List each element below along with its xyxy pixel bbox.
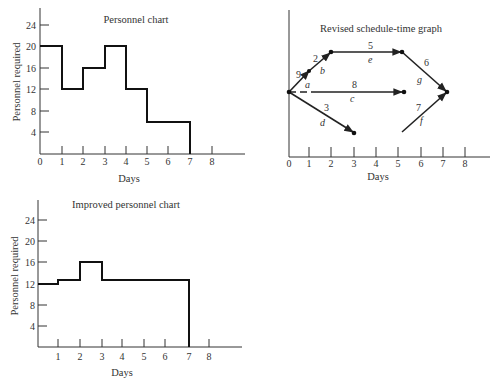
edge-a-letter: a: [305, 79, 310, 90]
x-tick-label: 6: [163, 351, 168, 362]
node: [445, 90, 450, 95]
x-tick-label: 3: [100, 351, 105, 362]
improved-personnel-chart: 24 20 16 12 8 4 1 2 3 4 5 6 7 8: [9, 199, 242, 378]
y-tick-label: 4: [31, 127, 36, 138]
personnel-chart: 24 20 16 12 8 4 0 1 2 3 4 5 6 7 8: [11, 8, 245, 184]
edge-d-letter: d: [320, 117, 326, 128]
edge-g-duration: 6: [424, 57, 429, 68]
x-tick-labels: 1 2 3 4 5 6 7 8: [56, 351, 212, 362]
x-tick-label: 7: [441, 158, 446, 169]
edge-c-letter: c: [350, 93, 355, 104]
personnel-step-line: [40, 46, 190, 154]
y-axis-label: Personnel required: [11, 42, 22, 122]
y-tick-labels: 24 20 16 12 8 4: [25, 215, 35, 332]
improved-personnel-step-line: [38, 262, 189, 347]
y-ticks: [38, 220, 47, 326]
x-tick-label: 4: [120, 351, 125, 362]
y-tick-labels: 24 20 16 12 8 4: [26, 20, 36, 138]
y-tick-label: 12: [26, 84, 36, 95]
y-tick-label: 20: [25, 236, 35, 247]
y-tick-label: 8: [31, 106, 36, 117]
x-tick-label: 5: [396, 158, 401, 169]
node: [307, 69, 311, 73]
x-tick-label: 5: [142, 351, 147, 362]
x-tick-label: 6: [166, 156, 171, 167]
x-tick-label: 8: [210, 156, 215, 167]
node: [400, 50, 405, 55]
edge-f-duration: 7: [416, 102, 421, 113]
y-tick-label: 12: [25, 279, 35, 290]
x-axis-label: Days: [111, 367, 133, 378]
edge-f: [402, 93, 446, 132]
y-axis-label: Personnel required: [9, 236, 20, 316]
x-tick-label: 7: [188, 156, 193, 167]
node: [402, 90, 407, 95]
y-tick-label: 4: [30, 321, 35, 332]
x-tick-label: 2: [78, 351, 83, 362]
x-tick-label: 7: [187, 351, 192, 362]
edge-a-duration: 9: [296, 69, 301, 80]
chart-title: Personnel chart: [103, 14, 168, 25]
edge-labels: 9 a 2 b 5 e 6 g 8 c 3 d 7 f: [296, 40, 429, 128]
edge-e-duration: 5: [368, 40, 373, 51]
y-tick-label: 24: [26, 20, 36, 31]
x-tick-label: 1: [56, 351, 61, 362]
x-tick-label: 4: [374, 158, 379, 169]
edge-f-letter: f: [420, 115, 424, 126]
revised-schedule-graph: 0 1 2 3 4 5 6 7 8: [287, 10, 491, 182]
chart-title: Improved personnel chart: [72, 199, 180, 210]
y-tick-label: 16: [25, 257, 35, 268]
x-tick-label: 1: [60, 156, 65, 167]
y-tick-label: 24: [25, 215, 35, 226]
node: [329, 50, 334, 55]
x-tick-label: 6: [419, 158, 424, 169]
edge-e-letter: e: [368, 54, 373, 65]
edge-g-letter: g: [417, 74, 422, 85]
x-tick-label: 3: [103, 156, 108, 167]
edge-b-duration: 2: [313, 53, 318, 64]
x-tick-label: 2: [329, 158, 334, 169]
x-tick-label: 8: [463, 158, 468, 169]
x-tick-label: 2: [81, 156, 86, 167]
node: [287, 90, 292, 95]
x-ticks: [309, 147, 465, 157]
x-tick-label: 8: [207, 351, 212, 362]
x-tick-labels: 0 1 2 3 4 5 6 7 8: [287, 158, 468, 169]
y-ticks: [40, 25, 49, 132]
edge-c-duration: 8: [352, 79, 357, 90]
figure: 24 20 16 12 8 4 0 1 2 3 4 5 6 7 8: [0, 0, 499, 388]
y-tick-label: 8: [30, 300, 35, 311]
x-ticks: [58, 339, 209, 347]
x-axis-label: Days: [118, 173, 140, 184]
x-tick-label: 1: [307, 158, 312, 169]
edge-d-duration: 3: [324, 102, 329, 113]
x-tick-label: 4: [124, 156, 129, 167]
x-tick-label: 3: [352, 158, 357, 169]
node: [352, 131, 357, 136]
x-tick-labels: 0 1 2 3 4 5 6 7 8: [38, 156, 215, 167]
y-tick-label: 16: [26, 63, 36, 74]
chart-title: Revised schedule-time graph: [320, 23, 443, 34]
edge-b-letter: b: [320, 65, 325, 76]
y-tick-label: 20: [26, 41, 36, 52]
x-tick-label: 5: [145, 156, 150, 167]
x-axis-label: Days: [367, 171, 389, 182]
x-tick-label: 0: [287, 158, 292, 169]
x-tick-label: 0: [38, 156, 43, 167]
